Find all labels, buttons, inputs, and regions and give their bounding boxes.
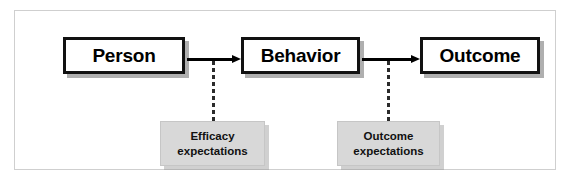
dashed-connector-efficacy [212, 61, 215, 121]
expectation-box-outcome[interactable]: Outcome expectations [337, 121, 440, 166]
arrow-behavior-to-outcome [362, 55, 420, 64]
arrow-head-icon [232, 55, 241, 63]
concept-box-outcome[interactable]: Outcome [420, 37, 540, 74]
diagram-frame: Person Behavior Outcome Efficacy expecta… [14, 10, 556, 170]
concept-box-person[interactable]: Person [63, 37, 185, 74]
concept-label-person: Person [92, 46, 155, 65]
concept-label-outcome: Outcome [440, 46, 521, 65]
expectation-box-efficacy[interactable]: Efficacy expectations [160, 121, 265, 166]
diagram-canvas: Person Behavior Outcome Efficacy expecta… [0, 0, 582, 184]
concept-box-behavior[interactable]: Behavior [241, 37, 360, 74]
expectation-label-efficacy-line2: expectations [177, 144, 247, 158]
expectation-label-outcome-line1: Outcome [364, 129, 414, 143]
arrow-shaft [187, 58, 233, 61]
concept-label-behavior: Behavior [261, 46, 341, 65]
expectation-label-efficacy-line1: Efficacy [190, 129, 234, 143]
arrow-head-icon [411, 55, 420, 63]
dashed-connector-outcome [387, 61, 390, 121]
expectation-label-outcome-line2: expectations [353, 144, 423, 158]
